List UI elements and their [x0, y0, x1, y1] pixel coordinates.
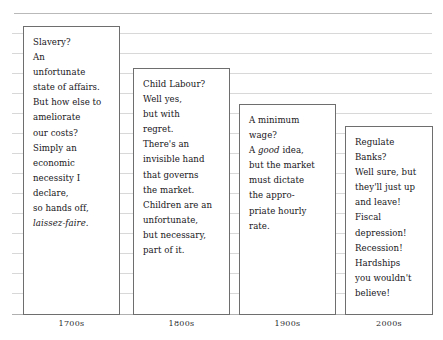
x-tick-label-1800s: 1800s — [133, 319, 230, 328]
annotation-line: laissez-faire. — [33, 216, 110, 231]
annotation-line: ameliorate — [33, 110, 110, 125]
annotation-box-1700s: Slavery?Anunfortunatestate of affairs.Bu… — [23, 26, 120, 315]
annotation-line: Well yes, — [143, 92, 220, 107]
chart-canvas: Slavery?Anunfortunatestate of affairs.Bu… — [0, 0, 443, 340]
annotation-line: Child Labour? — [143, 77, 220, 92]
annotation-line: There's an — [143, 137, 220, 152]
annotation-line: state of affairs. — [33, 80, 110, 95]
annotation-box-2000s: RegulateBanks?Well sure, butthey'll just… — [345, 126, 433, 315]
gridline — [14, 13, 432, 14]
annotation-line: you wouldn't — [355, 271, 423, 286]
annotation-line: unfortunate — [33, 65, 110, 80]
annotation-line: Fiscal — [355, 210, 423, 225]
annotation-line: and leave! — [355, 195, 423, 210]
annotation-line: invisible hand — [143, 152, 220, 167]
annotation-box-1900s: A minimumwage?A good idea,but the market… — [239, 104, 336, 315]
annotation-line: necessity I — [33, 171, 110, 186]
annotation-line: declare, — [33, 186, 110, 201]
annotation-line: the appro- — [249, 188, 326, 203]
x-tick-label-1700s: 1700s — [23, 319, 120, 328]
annotation-line: rate. — [249, 219, 326, 234]
annotation-line: that governs — [143, 168, 220, 183]
annotation-line: Simply an — [33, 141, 110, 156]
annotation-line: part of it. — [143, 243, 220, 258]
annotation-line: regret. — [143, 122, 220, 137]
annotation-line: Regulate — [355, 135, 423, 150]
annotation-line: Slavery? — [33, 35, 110, 50]
annotation-line: our costs? — [33, 126, 110, 141]
annotation-line: wage? — [249, 128, 326, 143]
annotation-line: Hardships — [355, 256, 423, 271]
annotation-line: must dictate — [249, 173, 326, 188]
annotation-line: depression! — [355, 226, 423, 241]
annotation-line: But how else to — [33, 95, 110, 110]
annotation-line: A good idea, — [249, 143, 326, 158]
annotation-line: Banks? — [355, 150, 423, 165]
annotation-line: they'll just up — [355, 180, 423, 195]
annotation-line: Children are an — [143, 198, 220, 213]
annotation-line: Recession! — [355, 241, 423, 256]
x-tick-label-1900s: 1900s — [239, 319, 336, 328]
x-tick-label-2000s: 2000s — [345, 319, 433, 328]
annotation-line: priate hourly — [249, 204, 326, 219]
annotation-line: economic — [33, 156, 110, 171]
annotation-box-1800s: Child Labour?Well yes,but withregret.The… — [133, 68, 230, 315]
annotation-line: believe! — [355, 286, 423, 301]
annotation-line: Well sure, but — [355, 165, 423, 180]
annotation-line: but the market — [249, 158, 326, 173]
annotation-line: but necessary, — [143, 228, 220, 243]
annotation-line: unfortunate, — [143, 213, 220, 228]
annotation-line: A minimum — [249, 113, 326, 128]
annotation-line: but with — [143, 107, 220, 122]
annotation-line: the market. — [143, 183, 220, 198]
annotation-line: An — [33, 50, 110, 65]
annotation-line: so hands off, — [33, 201, 110, 216]
